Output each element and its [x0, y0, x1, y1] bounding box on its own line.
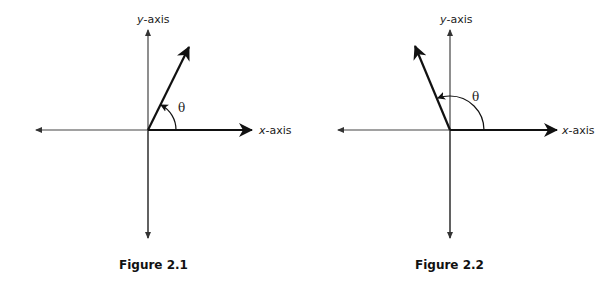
- y-axis-label: y-axis: [439, 13, 473, 26]
- angle-arc: [161, 105, 176, 130]
- figure-2-1: y-axis x-axis θ Figure 2.1: [36, 13, 292, 272]
- diagram-canvas: y-axis x-axis θ Figure 2.1 y-axis x-axis…: [0, 0, 615, 286]
- x-axis-label: x-axis: [561, 124, 595, 137]
- figure-2-2: y-axis x-axis θ Figure 2.2: [338, 13, 595, 272]
- theta-label: θ: [472, 90, 479, 104]
- x-axis-label: x-axis: [258, 124, 292, 137]
- theta-label: θ: [178, 101, 185, 115]
- vector-arrow: [148, 47, 189, 130]
- figure-caption: Figure 2.1: [119, 258, 188, 272]
- vector-arrow: [415, 46, 450, 130]
- y-axis-label: y-axis: [136, 13, 170, 26]
- figure-caption: Figure 2.2: [415, 258, 484, 272]
